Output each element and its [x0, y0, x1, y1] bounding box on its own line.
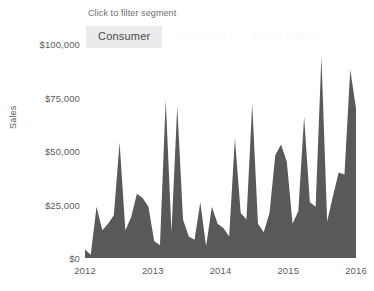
x-tick-2016: 2016: [345, 265, 367, 276]
x-tick-2014: 2014: [210, 265, 232, 276]
y-tick-75000: $75,000: [8, 92, 80, 103]
area-chart-svg: [85, 10, 356, 259]
area-chart-plot[interactable]: [85, 10, 356, 259]
y-tick-25000: $25,000: [8, 199, 80, 210]
x-tick-2015: 2015: [277, 265, 299, 276]
y-axis-tick-labels: $0$25,000$50,000$75,000$100,000: [0, 0, 80, 291]
y-tick-100000: $100,000: [8, 39, 80, 50]
y-tick-50000: $50,000: [8, 146, 80, 157]
chart-root: Click to filter segment Consumer Corpora…: [0, 0, 374, 291]
y-tick-0: $0: [8, 253, 80, 264]
area-series-consumer[interactable]: [85, 57, 356, 258]
x-tick-2013: 2013: [142, 265, 164, 276]
x-tick-2012: 2012: [74, 265, 96, 276]
